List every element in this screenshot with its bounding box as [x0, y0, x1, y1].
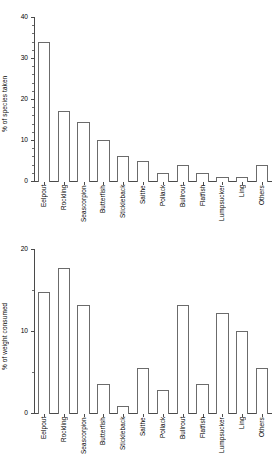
y-axis-major-tick: [31, 181, 34, 182]
bar: [97, 384, 109, 414]
x-axis-tick-label: Rockling: [60, 185, 67, 229]
bar: [157, 390, 169, 414]
y-axis-minor-tick: [32, 173, 34, 174]
x-axis-tick-label: Saithe: [139, 185, 146, 229]
y-axis-major-tick: [31, 58, 34, 59]
x-axis-tick-label: Ling: [238, 185, 245, 229]
y-axis-major-tick: [31, 140, 34, 141]
y-axis-minor-tick: [32, 25, 34, 26]
y-axis-tick-label: 40: [8, 13, 28, 20]
x-axis-tick-label: Flatfish: [199, 417, 206, 461]
y-axis-major-tick: [31, 331, 34, 332]
bar: [77, 305, 89, 414]
x-axis-tick-label: Seascorpion: [80, 417, 87, 461]
y-axis-title-bottom: % of weight consumed: [1, 267, 8, 405]
bar: [256, 368, 268, 414]
y-axis-minor-tick: [32, 74, 34, 75]
y-axis-major-tick: [31, 413, 34, 414]
y-axis-minor-tick: [32, 156, 34, 157]
x-axis-tick-label: Stickleback: [119, 417, 126, 461]
y-axis-minor-tick: [32, 115, 34, 116]
bar: [256, 165, 268, 182]
x-axis-tick-label: Seascorpion: [80, 185, 87, 229]
chart-panel-top: % of species taken 010203040EelpoutRockl…: [0, 0, 280, 232]
y-axis-major-tick: [31, 17, 34, 18]
y-axis-minor-tick: [32, 290, 34, 291]
bar: [177, 165, 189, 182]
y-axis-minor-tick: [32, 50, 34, 51]
bar: [58, 268, 70, 414]
y-axis-tick-label: 20: [8, 95, 28, 102]
x-axis-tick-label: Others: [258, 417, 265, 461]
y-axis-tick-label: 0: [8, 177, 28, 184]
plot-area-top: % of species taken 010203040EelpoutRockl…: [0, 0, 280, 232]
bar: [117, 156, 129, 182]
bar: [177, 305, 189, 414]
y-axis-minor-tick: [32, 91, 34, 92]
y-axis-minor-tick: [32, 33, 34, 34]
y-axis-minor-tick: [32, 148, 34, 149]
y-axis-tick-label: 30: [8, 54, 28, 61]
y-axis-tick-label: 10: [8, 136, 28, 143]
x-axis-tick-label: Lumpsucker: [218, 417, 225, 461]
bar: [117, 406, 129, 414]
x-axis-tick-label: Pollack: [159, 185, 166, 229]
y-axis-minor-tick: [32, 132, 34, 133]
x-axis-tick-label: Butterfish: [99, 185, 106, 229]
y-axis-minor-tick: [32, 372, 34, 373]
x-axis-tick-label: Pollack: [159, 417, 166, 461]
plot-area-bottom: % of weight consumed 01020EelpoutRocklin…: [0, 232, 280, 464]
y-axis-minor-tick: [32, 107, 34, 108]
x-axis-tick-label: Flatfish: [199, 185, 206, 229]
x-axis-tick-label: Lumpsucker: [218, 185, 225, 229]
x-axis-tick-label: Stickleback: [119, 185, 126, 229]
y-axis-tick-label: 10: [8, 327, 28, 334]
y-axis-minor-tick: [32, 83, 34, 84]
x-axis-tick-label: Bullrout: [179, 417, 186, 461]
x-axis-tick-label: Eelpout: [40, 417, 47, 461]
chart-panel-bottom: % of weight consumed 01020EelpoutRocklin…: [0, 232, 280, 464]
x-axis-tick-label: Eelpout: [40, 185, 47, 229]
y-axis-tick-label: 20: [8, 245, 28, 252]
bar: [196, 384, 208, 414]
y-axis-line: [34, 17, 35, 182]
bar: [196, 173, 208, 182]
y-axis-minor-tick: [32, 66, 34, 67]
x-axis-tick-label: Butterfish: [99, 417, 106, 461]
bar: [38, 42, 50, 182]
bar: [216, 313, 228, 414]
bar: [157, 173, 169, 182]
x-axis-tick-label: Ling: [238, 417, 245, 461]
bar: [137, 368, 149, 414]
y-axis-minor-tick: [32, 42, 34, 43]
y-axis-major-tick: [31, 249, 34, 250]
bar: [97, 140, 109, 182]
y-axis-major-tick: [31, 99, 34, 100]
bar: [236, 331, 248, 414]
bar: [77, 122, 89, 182]
x-axis-tick-label: Rockling: [60, 417, 67, 461]
x-axis-tick-label: Saithe: [139, 417, 146, 461]
y-axis-line: [34, 249, 35, 414]
y-axis-title-top: % of species taken: [1, 35, 8, 173]
x-axis-tick-label: Others: [258, 185, 265, 229]
y-axis-minor-tick: [32, 124, 34, 125]
y-axis-minor-tick: [32, 165, 34, 166]
y-axis-tick-label: 0: [8, 409, 28, 416]
bar: [38, 292, 50, 414]
figure-container: % of species taken 010203040EelpoutRockl…: [0, 0, 280, 464]
x-axis-tick-label: Bullrout: [179, 185, 186, 229]
bar: [137, 161, 149, 183]
bar: [58, 111, 70, 182]
